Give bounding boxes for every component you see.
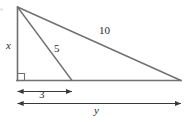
label-leg-x: x <box>6 40 11 51</box>
label-hypotenuse-10: 10 <box>99 25 110 36</box>
edge-artifact-mark <box>1 9 3 11</box>
segment-hypotenuse-10 <box>18 7 182 81</box>
right-angle-marker-icon <box>18 74 25 81</box>
label-base-total-y: y <box>94 105 99 116</box>
geometry-figure: x 5 10 3 y <box>0 0 190 122</box>
label-base-segment-3: 3 <box>39 89 45 100</box>
label-cevian-5: 5 <box>54 43 60 54</box>
segment-cevian-5 <box>18 7 73 81</box>
